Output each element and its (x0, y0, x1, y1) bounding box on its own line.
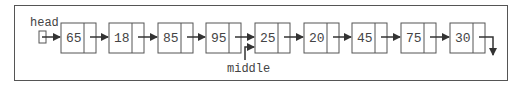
middle-label: middle (227, 62, 270, 76)
list-node-tail: 30 (450, 23, 485, 53)
node-value: 18 (114, 31, 130, 46)
list-node: 65 (61, 23, 96, 53)
linked-list-diagram: head 65 18 85 95 25 20 45 (0, 0, 522, 88)
node-value: 85 (163, 31, 179, 46)
list-node: 85 (158, 23, 193, 53)
list-node: 45 (352, 23, 387, 53)
node-value: 30 (455, 31, 471, 46)
list-node: 95 (206, 23, 241, 53)
node-value: 65 (66, 31, 82, 46)
node-value: 45 (357, 31, 373, 46)
node-value: 75 (406, 31, 422, 46)
head-label: head (30, 16, 59, 30)
list-node: 18 (109, 23, 144, 53)
node-value: 95 (211, 31, 227, 46)
node-value: 20 (309, 31, 325, 46)
list-node-middle: 25 (255, 23, 290, 53)
list-node: 75 (401, 23, 436, 53)
middle-arrow (245, 47, 254, 60)
list-node: 20 (304, 23, 339, 53)
node-value: 25 (260, 31, 276, 46)
